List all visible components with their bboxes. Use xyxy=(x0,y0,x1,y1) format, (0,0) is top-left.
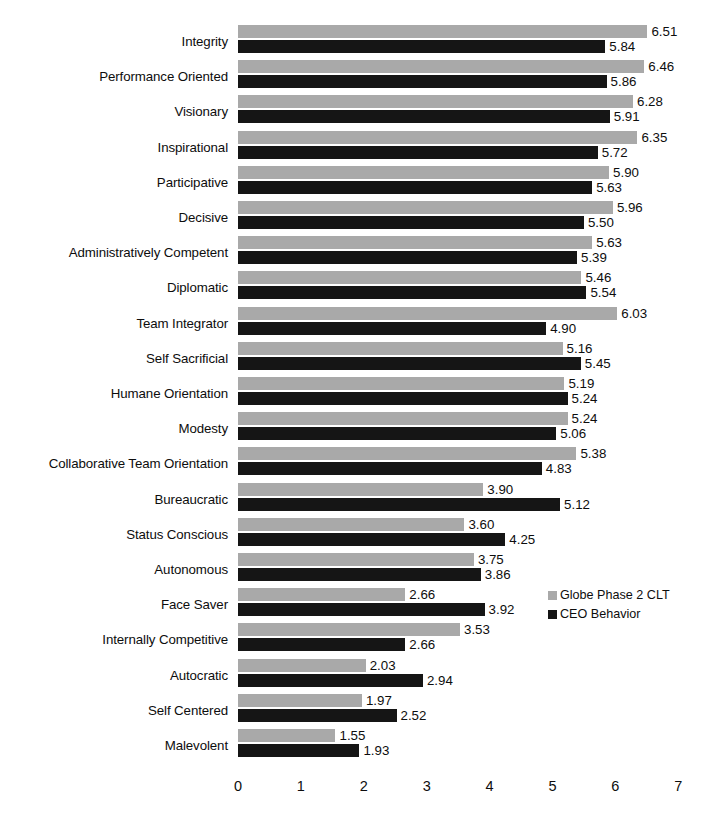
bar-value-label: 2.52 xyxy=(401,709,427,722)
bar-value-label: 5.86 xyxy=(611,75,637,88)
bar-value-label: 5.72 xyxy=(602,146,628,159)
bar-ceo-behavior xyxy=(238,533,505,546)
x-tick-label: 1 xyxy=(286,776,316,796)
bar-value-label: 5.91 xyxy=(614,110,640,123)
category-label: Autocratic xyxy=(0,666,228,686)
bar-ceo-behavior xyxy=(238,75,607,88)
bar-value-label: 6.03 xyxy=(621,307,647,320)
category-label: Self Centered xyxy=(0,701,228,721)
chart-category-row: Autocratic2.032.94 xyxy=(0,659,702,694)
legend-item[interactable]: CEO Behavior xyxy=(548,605,698,624)
bar-value-label: 6.51 xyxy=(651,25,677,38)
bar-ceo-behavior xyxy=(238,181,592,194)
bar-value-label: 5.12 xyxy=(564,498,590,511)
category-label: Inspirational xyxy=(0,138,228,158)
bar-globe-phase-2-clt xyxy=(238,729,335,742)
bar-value-label: 3.75 xyxy=(478,553,504,566)
bar-value-label: 5.63 xyxy=(596,236,622,249)
bar-globe-phase-2-clt xyxy=(238,483,483,496)
x-tick-label: 4 xyxy=(475,776,505,796)
bar-value-label: 6.46 xyxy=(648,60,674,73)
bar-ceo-behavior xyxy=(238,638,405,651)
bar-value-label: 5.96 xyxy=(617,201,643,214)
bar-globe-phase-2-clt xyxy=(238,131,637,144)
bar-value-label: 1.93 xyxy=(363,744,389,757)
category-label: Malevolent xyxy=(0,736,228,756)
x-tick-label: 2 xyxy=(349,776,379,796)
category-label: Humane Orientation xyxy=(0,384,228,404)
bar-globe-phase-2-clt xyxy=(238,694,362,707)
chart-category-row: Modesty5.245.06 xyxy=(0,412,702,447)
bar-value-label: 5.90 xyxy=(613,166,639,179)
category-label: Administratively Competent xyxy=(0,243,228,263)
bar-value-label: 6.28 xyxy=(637,95,663,108)
bar-value-label: 2.03 xyxy=(370,659,396,672)
bar-value-label: 5.50 xyxy=(588,216,614,229)
bar-ceo-behavior xyxy=(238,146,598,159)
chart-category-row: Visionary6.285.91 xyxy=(0,95,702,130)
bar-value-label: 5.16 xyxy=(567,342,593,355)
legend-label: Globe Phase 2 CLT xyxy=(560,586,670,605)
bar-value-label: 4.25 xyxy=(509,533,535,546)
legend-swatch-icon xyxy=(548,610,557,619)
category-label: Status Conscious xyxy=(0,525,228,545)
x-tick-label: 6 xyxy=(600,776,630,796)
bar-ceo-behavior xyxy=(238,392,568,405)
bar-value-label: 5.45 xyxy=(585,357,611,370)
grouped-bar-chart: Integrity6.515.84Performance Oriented6.4… xyxy=(0,0,702,822)
bar-ceo-behavior xyxy=(238,709,397,722)
chart-category-row: Internally Competitive3.532.66 xyxy=(0,623,702,658)
chart-category-row: Malevolent1.551.93 xyxy=(0,729,702,764)
bar-ceo-behavior xyxy=(238,286,586,299)
bar-globe-phase-2-clt xyxy=(238,342,563,355)
bar-globe-phase-2-clt xyxy=(238,95,633,108)
x-tick-label: 5 xyxy=(538,776,568,796)
category-label: Self Sacrificial xyxy=(0,349,228,369)
bar-value-label: 2.66 xyxy=(409,588,435,601)
bar-globe-phase-2-clt xyxy=(238,271,581,284)
bar-globe-phase-2-clt xyxy=(238,201,613,214)
chart-category-row: Participative5.905.63 xyxy=(0,166,702,201)
bar-ceo-behavior xyxy=(238,110,610,123)
category-label: Modesty xyxy=(0,419,228,439)
bar-ceo-behavior xyxy=(238,357,581,370)
bar-ceo-behavior xyxy=(238,744,359,757)
bar-value-label: 5.24 xyxy=(572,412,598,425)
bar-ceo-behavior xyxy=(238,603,485,616)
bar-value-label: 3.60 xyxy=(468,518,494,531)
legend-item[interactable]: Globe Phase 2 CLT xyxy=(548,586,698,605)
bar-value-label: 5.38 xyxy=(580,447,606,460)
bar-ceo-behavior xyxy=(238,322,546,335)
bar-value-label: 5.46 xyxy=(585,271,611,284)
chart-category-row: Inspirational6.355.72 xyxy=(0,131,702,166)
chart-legend: Globe Phase 2 CLTCEO Behavior xyxy=(548,586,698,624)
bar-ceo-behavior xyxy=(238,251,577,264)
bar-ceo-behavior xyxy=(238,462,542,475)
bar-value-label: 5.63 xyxy=(596,181,622,194)
bar-ceo-behavior xyxy=(238,216,584,229)
bar-ceo-behavior xyxy=(238,427,556,440)
legend-label: CEO Behavior xyxy=(560,605,641,624)
chart-category-row: Collaborative Team Orientation5.384.83 xyxy=(0,447,702,482)
bar-ceo-behavior xyxy=(238,498,560,511)
bar-value-label: 5.84 xyxy=(609,40,635,53)
chart-category-row: Diplomatic5.465.54 xyxy=(0,271,702,306)
bar-value-label: 3.92 xyxy=(489,603,515,616)
category-label: Internally Competitive xyxy=(0,630,228,650)
x-tick-label: 7 xyxy=(663,776,693,796)
chart-category-row: Administratively Competent5.635.39 xyxy=(0,236,702,271)
chart-category-row: Status Conscious3.604.25 xyxy=(0,518,702,553)
bar-value-label: 1.55 xyxy=(339,729,365,742)
chart-category-row: Integrity6.515.84 xyxy=(0,25,702,60)
x-tick-label: 3 xyxy=(412,776,442,796)
bar-value-label: 3.86 xyxy=(485,568,511,581)
category-label: Team Integrator xyxy=(0,314,228,334)
bar-globe-phase-2-clt xyxy=(238,60,644,73)
bar-globe-phase-2-clt xyxy=(238,412,568,425)
category-label: Decisive xyxy=(0,208,228,228)
bar-globe-phase-2-clt xyxy=(238,25,647,38)
bar-value-label: 5.19 xyxy=(568,377,594,390)
bar-value-label: 5.06 xyxy=(560,427,586,440)
bar-value-label: 2.94 xyxy=(427,674,453,687)
bar-globe-phase-2-clt xyxy=(238,623,460,636)
